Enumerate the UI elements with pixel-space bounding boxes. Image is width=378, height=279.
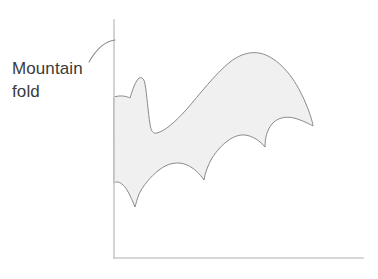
fold-diagram: Mountain fold xyxy=(0,0,378,279)
diagram-canvas xyxy=(0,0,378,279)
bat-silhouette-shape xyxy=(114,53,313,207)
mountain-fold-label: Mountain fold xyxy=(12,57,108,103)
